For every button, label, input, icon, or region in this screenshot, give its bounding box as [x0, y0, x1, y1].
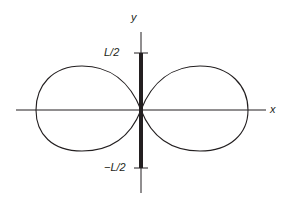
- diagram-canvas: [0, 0, 292, 203]
- left-lobe: [36, 66, 141, 151]
- tick-label-bottom: −L/2: [104, 162, 126, 173]
- y-axis-label: y: [131, 12, 137, 23]
- tick-label-top: L/2: [104, 47, 119, 58]
- right-lobe: [141, 66, 248, 151]
- x-axis-label: x: [270, 104, 276, 115]
